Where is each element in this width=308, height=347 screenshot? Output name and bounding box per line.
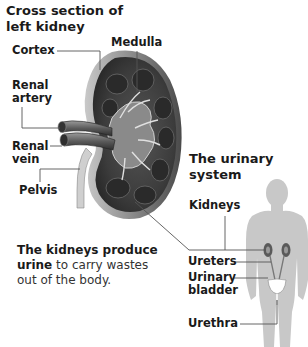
label-renal-artery: Renal artery bbox=[12, 79, 52, 105]
label-medulla: Medulla bbox=[111, 36, 162, 49]
description-text: The kidneys produce urine to carry waste… bbox=[17, 243, 158, 288]
label-renal-vein-line2: vein bbox=[12, 153, 49, 166]
label-renal-vein: Renal vein bbox=[12, 140, 49, 166]
kidney-section-title: Cross section of left kidney bbox=[6, 3, 123, 35]
label-urinary-bladder-line2: bladder bbox=[188, 284, 238, 297]
description-rest-2: to carry wastes bbox=[52, 258, 148, 272]
kidney-section-title-line1: Cross section of bbox=[6, 3, 123, 19]
label-kidneys: Kidneys bbox=[189, 199, 240, 212]
label-urinary-bladder: Urinary bladder bbox=[188, 271, 238, 297]
label-urethra: Urethra bbox=[188, 317, 238, 330]
urinary-system-title: The urinary system bbox=[189, 151, 274, 183]
kidney-section-title-line2: left kidney bbox=[6, 19, 123, 35]
urinary-system-title-line1: The urinary bbox=[189, 151, 274, 167]
description-bold-1: The kidneys produce bbox=[17, 243, 158, 257]
label-cortex: Cortex bbox=[12, 44, 55, 57]
label-pelvis: Pelvis bbox=[19, 184, 57, 197]
description-bold-urine: urine bbox=[17, 258, 52, 272]
label-ureters: Ureters bbox=[188, 255, 237, 268]
urinary-system-title-line2: system bbox=[189, 167, 274, 183]
kidney-illustration bbox=[58, 51, 182, 220]
label-renal-artery-line2: artery bbox=[12, 92, 52, 105]
description-line-3: out of the body. bbox=[17, 273, 158, 288]
